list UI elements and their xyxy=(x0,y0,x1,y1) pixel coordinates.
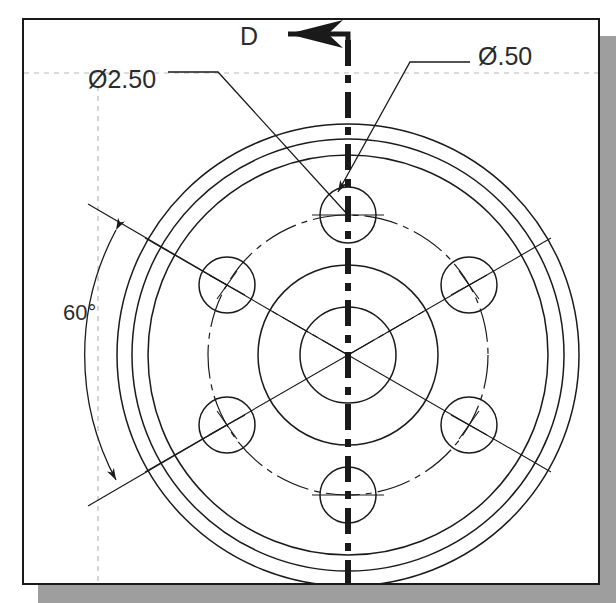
hole-upper-right xyxy=(441,257,497,313)
hole-upper-right-centermark-b xyxy=(459,271,479,299)
hole-lower-right-centermark-b xyxy=(459,411,479,439)
technical-drawing-svg: Ø2.50 Ø.50 60° D xyxy=(0,0,616,603)
dimension-label-bolt-circle-diameter: Ø2.50 xyxy=(88,65,156,93)
dimension-label-hole-diameter: Ø.50 xyxy=(478,42,532,70)
section-arrow-D xyxy=(288,34,348,40)
section-label-D: D xyxy=(240,22,258,50)
diameter-250-leader xyxy=(168,72,348,215)
angle-dimension-arc xyxy=(85,230,116,480)
hole-lower-right xyxy=(441,397,497,453)
drawing-svg-container: Ø2.50 Ø.50 60° D xyxy=(0,0,616,603)
dimension-label-angle: 60° xyxy=(63,300,96,325)
diameter-050-leader xyxy=(338,62,470,192)
radial-centerline-lower-right xyxy=(348,355,551,472)
drawing-canvas: Ø2.50 Ø.50 60° D xyxy=(0,0,616,603)
